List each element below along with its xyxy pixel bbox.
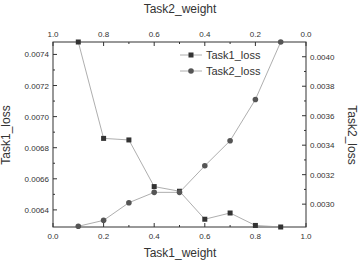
- x2-tick-label: 0.6: [149, 30, 161, 39]
- data-marker-square: [228, 211, 233, 216]
- data-marker-square: [278, 225, 283, 230]
- legend-label: Task1_loss: [206, 49, 261, 61]
- data-marker-circle: [202, 163, 208, 169]
- x2-tick-label: 1.0: [47, 30, 59, 39]
- x2-tick-label: 0.0: [300, 30, 312, 39]
- data-marker-circle: [151, 190, 157, 196]
- x2-tick-label: 0.4: [199, 30, 211, 39]
- data-marker-square: [253, 223, 258, 228]
- x-tick-label: 0.4: [149, 232, 161, 241]
- data-marker-circle: [126, 200, 132, 206]
- x-tick-label: 1.0: [300, 232, 312, 241]
- y2-tick-label: 0.0040: [310, 53, 335, 62]
- x-tick-label: 0.2: [98, 232, 110, 241]
- data-marker-square: [126, 137, 131, 142]
- data-marker-circle: [278, 39, 284, 45]
- y-tick-label: 0.0072: [25, 82, 50, 91]
- legend: Task1_lossTask2_loss: [180, 49, 261, 77]
- x-tick-label: 0.0: [47, 232, 59, 241]
- legend-label: Task2_loss: [206, 65, 261, 77]
- y-tick-label: 0.0068: [25, 144, 50, 153]
- data-marker-square: [76, 40, 81, 45]
- y2-axis-label: Task2_loss: [345, 105, 358, 164]
- plot-frame: [53, 42, 306, 227]
- y-tick-label: 0.0064: [25, 206, 50, 215]
- y2-tick-label: 0.0038: [310, 82, 335, 91]
- legend-square-icon: [189, 53, 194, 58]
- legend-circle-icon: [188, 68, 194, 74]
- y2-tick-label: 0.0034: [310, 141, 335, 150]
- y-tick-label: 0.0074: [25, 50, 50, 59]
- data-marker-circle: [76, 223, 82, 229]
- y2-tick-label: 0.0036: [310, 112, 335, 121]
- data-marker-square: [152, 184, 157, 189]
- data-marker-circle: [101, 218, 107, 224]
- x-tick-label: 0.6: [199, 232, 211, 241]
- y2-tick-label: 0.0032: [310, 171, 335, 180]
- data-marker-square: [101, 136, 106, 141]
- x2-axis-label: Task2_weight: [144, 2, 217, 16]
- data-marker-circle: [177, 190, 183, 196]
- x-tick-label: 0.8: [250, 232, 262, 241]
- x2-tick-label: 0.8: [98, 30, 110, 39]
- y2-tick-label: 0.0030: [310, 200, 335, 209]
- y-tick-label: 0.0066: [25, 175, 50, 184]
- data-marker-circle: [227, 138, 233, 144]
- y-tick-label: 0.0070: [25, 113, 50, 122]
- x2-tick-label: 0.2: [250, 30, 262, 39]
- y-axis-label: Task1_loss: [0, 105, 13, 164]
- dual-axis-line-chart: 0.01.00.20.80.40.60.60.40.80.21.00.00.00…: [0, 0, 358, 266]
- x-axis-label: Task1_weight: [144, 246, 217, 260]
- data-marker-square: [202, 217, 207, 222]
- data-marker-circle: [253, 97, 259, 103]
